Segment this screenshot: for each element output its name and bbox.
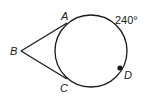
label-b: B bbox=[10, 45, 17, 57]
tangent-circle-diagram: A B C D 240° bbox=[0, 0, 154, 100]
label-c: C bbox=[60, 82, 68, 94]
label-a: A bbox=[60, 10, 68, 22]
arc-measure-label: 240° bbox=[115, 14, 138, 26]
label-d: D bbox=[124, 69, 132, 81]
point-d-dot bbox=[117, 65, 122, 70]
tangent-segment-bc bbox=[21, 51, 67, 79]
tangent-segment-ba bbox=[21, 23, 67, 51]
